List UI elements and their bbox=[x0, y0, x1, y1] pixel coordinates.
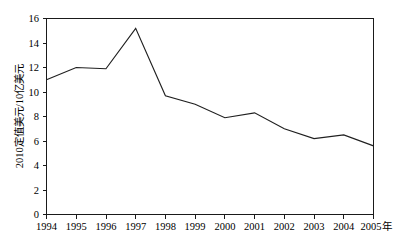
y-axis-title-group: 2010定值美元/10亿美元 bbox=[13, 63, 25, 168]
x-tick-label-1999: 1999 bbox=[185, 221, 206, 232]
x-tick-label-2003: 2003 bbox=[304, 221, 325, 232]
x-tick-label-1997: 1997 bbox=[125, 221, 146, 232]
y-tick-label-4: 4 bbox=[34, 160, 40, 171]
y-axis-title: 2010定值美元/10亿美元 bbox=[13, 63, 25, 168]
series-group bbox=[47, 28, 374, 146]
x-tick-label-1996: 1996 bbox=[96, 221, 117, 232]
y-tick-label-0: 0 bbox=[34, 209, 39, 220]
y-tick-label-14: 14 bbox=[29, 38, 40, 49]
x-tick-label-2005: 2005 bbox=[361, 221, 382, 232]
y-axis-ticks bbox=[43, 19, 47, 215]
x-tick-label-2004: 2004 bbox=[333, 221, 355, 232]
y-axis-tick-labels: 0 2 4 6 8 10 12 14 16 bbox=[29, 13, 40, 220]
x-tick-label-1995: 1995 bbox=[66, 221, 87, 232]
y-tick-label-16: 16 bbox=[29, 13, 40, 24]
y-tick-label-12: 12 bbox=[29, 62, 40, 73]
x-axis-title: 年 bbox=[382, 220, 392, 232]
x-tick-label-2001: 2001 bbox=[244, 221, 265, 232]
y-tick-label-10: 10 bbox=[29, 87, 40, 98]
chart-page: 0 2 4 6 8 10 12 14 16 2010定值美元/10亿美元 bbox=[0, 0, 394, 241]
x-axis-tick-labels: 1994 1995 1996 1997 1998 1999 2000 2001 … bbox=[36, 220, 392, 232]
x-tick-label-1998: 1998 bbox=[155, 221, 176, 232]
x-tick-label-2000: 2000 bbox=[214, 221, 235, 232]
x-tick-label-1994: 1994 bbox=[36, 221, 58, 232]
axis-box bbox=[47, 19, 374, 215]
x-tick-label-2002: 2002 bbox=[274, 221, 295, 232]
axis-frame bbox=[47, 19, 374, 215]
series-line-0 bbox=[47, 28, 374, 146]
line-chart: 0 2 4 6 8 10 12 14 16 2010定值美元/10亿美元 bbox=[0, 0, 394, 241]
y-tick-label-2: 2 bbox=[34, 185, 39, 196]
y-tick-label-8: 8 bbox=[34, 111, 39, 122]
chart-svg: 0 2 4 6 8 10 12 14 16 2010定值美元/10亿美元 bbox=[0, 0, 394, 241]
y-tick-label-6: 6 bbox=[34, 136, 39, 147]
x-axis-ticks bbox=[47, 215, 374, 219]
